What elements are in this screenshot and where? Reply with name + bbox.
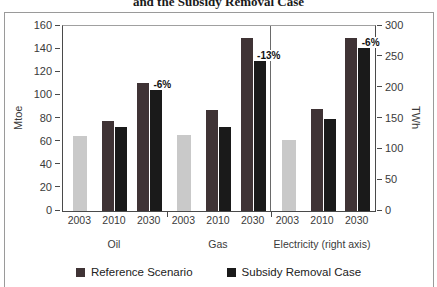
left-axis-tick-100: 100	[34, 88, 60, 100]
bar-oil-2030-subsidy	[150, 90, 162, 211]
figure-title: and the Subsidy Removal Case	[0, 0, 437, 10]
category-labels: OilGasElectricity (right axis)	[62, 238, 374, 250]
category-label-gas: Gas	[166, 238, 270, 250]
right-axis-ticks: 300250200150100500	[377, 25, 437, 210]
x-label-electricity-2003: 2003	[270, 214, 305, 226]
bar-gas-2010-reference	[206, 110, 218, 211]
left-axis-ticks: 160140120100806040200	[0, 25, 60, 210]
right-axis-tick-300: 300	[377, 19, 403, 31]
bar-electricity-2030-subsidy	[358, 48, 370, 211]
reference-scenario-swatch	[76, 268, 85, 277]
x-label-oil-2010: 2010	[97, 214, 132, 226]
legend-item-subsidy: Subsidy Removal Case	[227, 266, 362, 278]
left-axis-tick-40: 40	[40, 158, 60, 170]
x-label-electricity-2030: 2030	[339, 214, 374, 226]
bar-gas-2030-reference	[241, 38, 253, 211]
bar-oil-2030-reference	[137, 83, 149, 211]
group-oil-2003	[63, 26, 98, 211]
bar-electricity-2003-actual	[282, 140, 296, 211]
right-axis-tick-200: 200	[377, 81, 403, 93]
left-axis-tick-140: 140	[34, 42, 60, 54]
legend: Reference Scenario Subsidy Removal Case	[0, 266, 437, 278]
x-label-gas-2010: 2010	[201, 214, 236, 226]
x-axis-year-labels: 200320102030200320102030200320102030	[62, 214, 374, 226]
right-axis-tick-0: 0	[377, 204, 391, 216]
left-axis-tick-120: 120	[34, 65, 60, 77]
annotation-electricity-2030: -6%	[361, 37, 381, 48]
x-label-gas-2030: 2030	[235, 214, 270, 226]
bar-gas-2003-actual	[177, 135, 191, 211]
bar-electricity-2030-reference	[345, 38, 357, 211]
bar-oil-2003-actual	[73, 136, 87, 211]
x-label-oil-2003: 2003	[62, 214, 97, 226]
year-labels-gas: 200320102030	[166, 214, 270, 226]
year-labels-oil: 200320102030	[62, 214, 166, 226]
left-axis-tick-20: 20	[40, 181, 60, 193]
legend-label-reference: Reference Scenario	[91, 266, 193, 278]
x-label-gas-2003: 2003	[166, 214, 201, 226]
group-gas-2030: -13%	[236, 26, 271, 211]
annotation-oil-2030: -6%	[152, 79, 172, 90]
year-labels-electricity: 200320102030	[270, 214, 374, 226]
category-label-electricity: Electricity (right axis)	[270, 238, 374, 250]
x-label-electricity-2010: 2010	[305, 214, 340, 226]
left-axis-tick-80: 80	[40, 112, 60, 124]
bar-gas-2010-subsidy	[219, 127, 231, 211]
legend-item-reference: Reference Scenario	[76, 266, 193, 278]
bar-oil-2010-subsidy	[115, 127, 127, 211]
group-oil-2010	[98, 26, 133, 211]
left-axis-tick-60: 60	[40, 135, 60, 147]
right-axis-tick-50: 50	[377, 173, 397, 185]
group-gas-2010	[201, 26, 236, 211]
group-electricity-2030: -6%	[340, 26, 375, 211]
plot-area: -6%-13%-6%	[62, 25, 376, 212]
bar-oil-2010-reference	[102, 121, 114, 211]
section-gas: -13%	[167, 26, 271, 211]
section-oil: -6%	[63, 26, 167, 211]
figure: and the Subsidy Removal Case Mtoe TWh 16…	[0, 0, 437, 287]
annotation-gas-2030: -13%	[256, 50, 281, 61]
x-label-oil-2030: 2030	[131, 214, 166, 226]
category-label-oil: Oil	[62, 238, 166, 250]
group-gas-2003	[167, 26, 202, 211]
section-electricity: -6%	[270, 26, 375, 211]
bar-electricity-2010-reference	[311, 109, 323, 211]
legend-label-subsidy: Subsidy Removal Case	[242, 266, 362, 278]
left-axis-tick-160: 160	[34, 19, 60, 31]
left-axis-tick-0: 0	[46, 204, 60, 216]
right-axis-tick-150: 150	[377, 112, 403, 124]
subsidy-removal-swatch	[227, 268, 236, 277]
bar-electricity-2010-subsidy	[324, 119, 336, 212]
bar-gas-2030-subsidy	[254, 61, 266, 211]
group-electricity-2010	[306, 26, 341, 211]
right-axis-tick-100: 100	[377, 142, 403, 154]
group-oil-2030: -6%	[132, 26, 167, 211]
right-axis-tick-250: 250	[377, 50, 403, 62]
